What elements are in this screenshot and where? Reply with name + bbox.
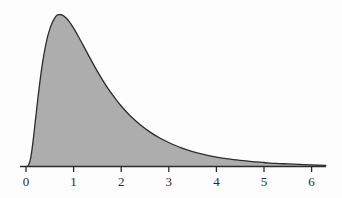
x-tick-label-0: 0	[16, 175, 36, 189]
chart-plot-area	[0, 0, 342, 198]
x-tick-label-4: 4	[206, 175, 226, 189]
density-area-fill	[26, 14, 326, 166]
density-chart: 0123456	[0, 0, 342, 198]
x-tick-label-3: 3	[159, 175, 179, 189]
x-tick-label-1: 1	[64, 175, 84, 189]
x-tick-label-6: 6	[302, 175, 322, 189]
x-tick-label-2: 2	[111, 175, 131, 189]
curve-group	[26, 14, 326, 166]
x-tick-label-5: 5	[254, 175, 274, 189]
